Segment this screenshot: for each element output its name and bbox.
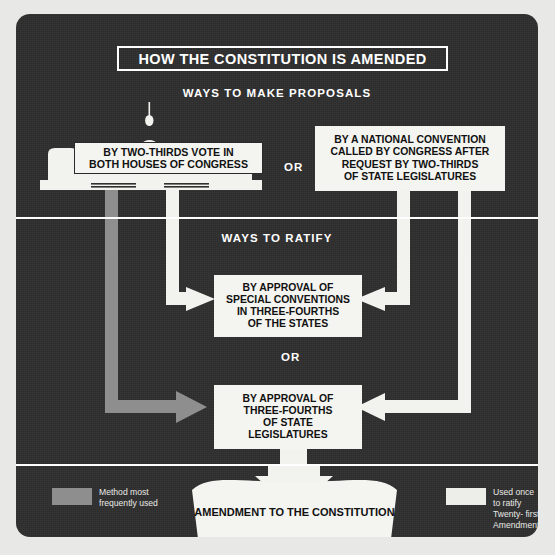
box-national-line-2: CALLED BY CONGRESS AFTER	[331, 146, 490, 158]
box-special-conventions-ratify[interactable]: BY APPROVAL OF SPECIAL CONVENTIONS IN TH…	[214, 275, 362, 337]
white-pipe-down-from-convention-a	[397, 191, 410, 305]
box-congress-line-1: BY TWO-THIRDS VOTE IN	[103, 146, 233, 158]
white-pipe-left-to-states	[382, 400, 471, 413]
box-national-line-3: REQUEST BY TWO-THIRDS	[342, 159, 479, 171]
section-heading-ratify: WAYS TO RATIFY	[16, 232, 538, 244]
legend-most-frequent: Method most frequently used	[52, 487, 158, 509]
box-states-line-1: BY APPROVAL OF	[243, 393, 334, 405]
gray-pipe-down-from-congress	[105, 174, 118, 413]
poster-root: AMENDMENT TO THE CONSTITUTION BY TWO-THI…	[0, 0, 555, 555]
page-title: HOW THE CONSTITUTION IS AMENDED	[138, 51, 426, 67]
white-pipe-left-to-special	[381, 292, 410, 305]
chart-panel: AMENDMENT TO THE CONSTITUTION BY TWO-THI…	[16, 14, 538, 537]
or-label-proposals: OR	[284, 161, 303, 173]
legend-most-frequent-text: Method most frequently used	[99, 487, 158, 509]
box-congress-proposal[interactable]: BY TWO-THIRDS VOTE IN BOTH HOUSES OF CON…	[74, 142, 263, 174]
amendment-line-2: THE CONSTITUTION	[287, 506, 395, 518]
box-national-line-1: BY A NATIONAL CONVENTION	[334, 134, 486, 146]
gray-arrowhead-to-states	[176, 389, 208, 425]
box-special-line-1: BY APPROVAL OF	[243, 282, 334, 294]
amendment-outcome-label: AMENDMENT TO THE CONSTITUTION	[192, 506, 397, 520]
box-states-line-2: THREE-FOURTHS	[244, 405, 333, 417]
legend-used-once-text: Used once to ratify Twenty- first Amendm…	[493, 487, 538, 531]
legend-swatch-gray	[52, 488, 92, 505]
gray-pipe-right-to-states	[105, 400, 185, 413]
or-label-ratify: OR	[281, 351, 300, 363]
legend-swatch-white	[446, 488, 486, 505]
divider-proposals-ratify	[16, 217, 538, 219]
divider-ratify-outcome	[16, 464, 538, 466]
box-national-line-4: OF STATE LEGISLATURES	[344, 171, 476, 183]
legend-used-once: Used once to ratify Twenty- first Amendm…	[446, 487, 538, 531]
box-national-convention-proposal[interactable]: BY A NATIONAL CONVENTION CALLED BY CONGR…	[315, 126, 505, 191]
amendment-line-1: AMENDMENT TO	[194, 506, 284, 518]
box-special-line-4: OF THE STATES	[248, 318, 328, 330]
box-special-line-2: SPECIAL CONVENTIONS	[226, 294, 350, 306]
section-heading-proposals: WAYS TO MAKE PROPOSALS	[16, 87, 538, 99]
box-states-line-4: LEGISLATURES	[248, 429, 327, 441]
white-pipe-down-from-convention-b	[458, 191, 471, 413]
white-arrowhead-to-special	[186, 286, 216, 312]
box-state-legislatures-ratify[interactable]: BY APPROVAL OF THREE-FOURTHS OF STATE LE…	[214, 385, 362, 449]
box-congress-line-2: BOTH HOUSES OF CONGRESS	[89, 158, 248, 170]
box-special-line-3: IN THREE-FOURTHS	[237, 306, 339, 318]
poster-title-box: HOW THE CONSTITUTION IS AMENDED	[117, 46, 448, 71]
box-states-line-3: OF STATE	[263, 417, 313, 429]
